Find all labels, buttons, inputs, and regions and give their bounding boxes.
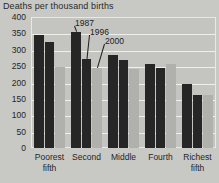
bar-1996-second [82,59,92,148]
bar-1987-poorest-fifth [34,35,44,148]
bar-group [182,17,212,148]
bar-1987-fourth [145,64,155,148]
bar-1987-second [71,32,81,148]
bar-group [71,17,101,148]
y-axis-tick-label: 250 [12,61,26,71]
bar-2000-middle [129,69,139,148]
bar-2000-second [92,68,102,148]
x-axis-label-poorest-fifth: Poorestfifth [31,152,68,174]
bar-group [108,17,138,148]
y-axis-tick-label: 400 [12,12,26,22]
bar-1996-poorest-fifth [45,42,55,148]
bar-1996-richest-fifth [193,95,203,148]
bar-2000-fourth [166,64,176,148]
bar-1996-fourth [156,68,166,148]
x-axis-label-middle: Middle [105,152,142,163]
y-axis-tick-label: 150 [12,94,26,104]
y-axis-tick-label: 50 [17,127,26,137]
bars-layer [31,17,216,148]
x-axis-label-richest-fifth: Richestfifth [179,152,216,174]
y-axis-tick-label: 0 [21,143,26,153]
bar-2000-poorest-fifth [55,67,65,148]
chart-title: Deaths per thousand births [3,1,114,11]
x-axis-labels: PoorestfifthSecondMiddleFourthRichestfif… [31,152,216,182]
bar-1987-richest-fifth [182,84,192,148]
y-axis-tick-label: 350 [12,28,26,38]
x-axis-label-fourth: Fourth [142,152,179,163]
x-axis-label-second: Second [68,152,105,163]
bar-1987-middle [108,55,118,148]
chart-container: Deaths per thousand births 4003503002502… [0,0,219,183]
y-axis-tick-label: 200 [12,78,26,88]
y-axis-tick-label: 300 [12,45,26,55]
y-axis-tick-label: 100 [12,110,26,120]
bar-group [145,17,175,148]
y-axis: 400350300250200150100500 [0,17,29,148]
bar-group [34,17,64,148]
bar-1996-middle [119,60,129,148]
bar-2000-richest-fifth [203,95,213,148]
